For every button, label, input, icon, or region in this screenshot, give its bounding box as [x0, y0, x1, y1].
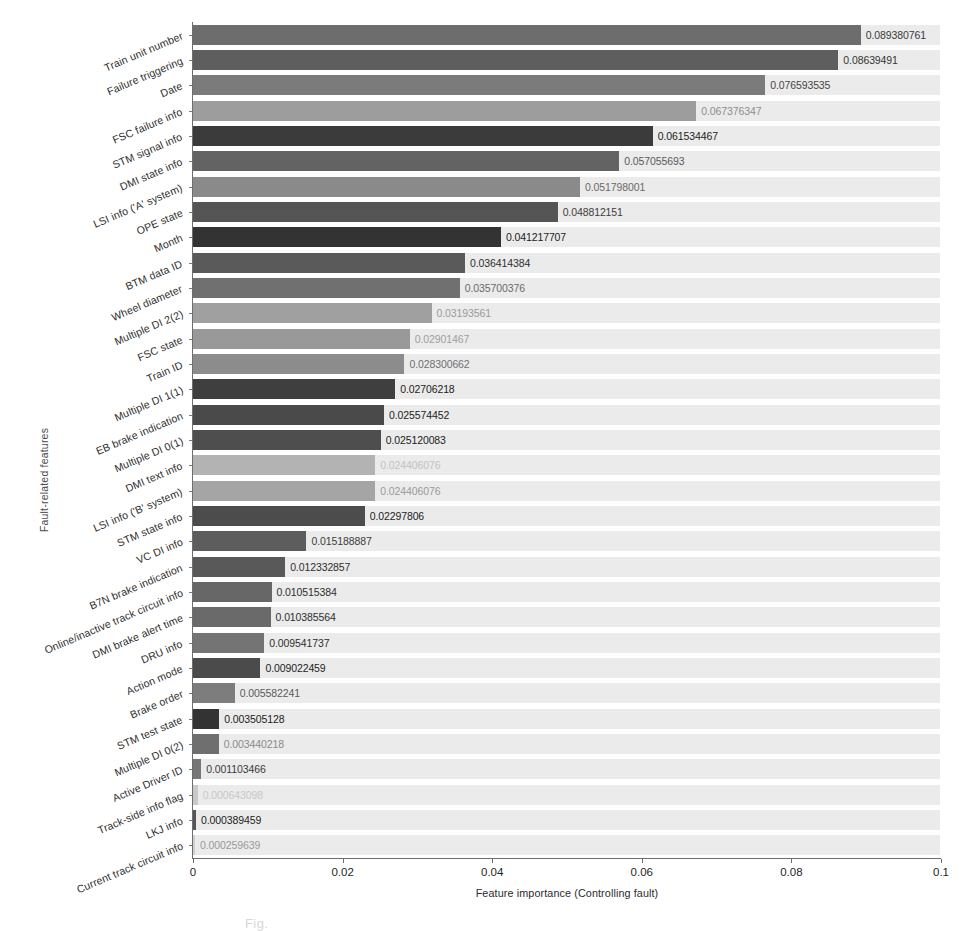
bar[interactable]	[193, 101, 696, 121]
bar[interactable]	[193, 278, 460, 298]
bar-value-label: 0.025574452	[389, 410, 449, 421]
bar[interactable]	[193, 709, 219, 729]
bar[interactable]	[193, 253, 465, 273]
bar-value-label: 0.024406076	[380, 486, 440, 497]
bar[interactable]	[193, 227, 501, 247]
row-band	[193, 759, 940, 779]
bar[interactable]	[193, 582, 272, 602]
bar-value-label: 0.08639491	[843, 55, 897, 66]
bar-value-label: 0.02901467	[415, 334, 469, 345]
bar-value-label: 0.057055693	[624, 156, 684, 167]
bar[interactable]	[193, 531, 306, 551]
bar[interactable]	[193, 455, 375, 475]
bar[interactable]	[193, 835, 195, 855]
bar-value-label: 0.005582241	[240, 688, 300, 699]
bar[interactable]	[193, 25, 861, 45]
bar[interactable]	[193, 734, 219, 754]
y-tick-label: DRU info	[139, 637, 184, 665]
bar-value-label: 0.015188887	[311, 536, 371, 547]
bar[interactable]	[193, 405, 384, 425]
x-tick-mark	[791, 859, 792, 863]
bar[interactable]	[193, 683, 235, 703]
x-tick-label: 0	[190, 866, 196, 878]
bar[interactable]	[193, 177, 580, 197]
bar[interactable]	[193, 430, 381, 450]
x-tick-mark	[941, 859, 942, 863]
x-tick-mark	[343, 859, 344, 863]
bar[interactable]	[193, 506, 365, 526]
x-tick-label: 0.06	[631, 866, 653, 878]
bar-value-label: 0.028300662	[409, 359, 469, 370]
bar[interactable]	[193, 151, 619, 171]
bar-value-label: 0.010385564	[276, 612, 336, 623]
bar-value-label: 0.009541737	[269, 638, 329, 649]
bar-value-label: 0.025120083	[386, 435, 446, 446]
bar[interactable]	[193, 658, 260, 678]
bar-value-label: 0.035700376	[465, 283, 525, 294]
bar[interactable]	[193, 379, 395, 399]
x-tick-label: 0.02	[331, 866, 353, 878]
bar-value-label: 0.036414384	[470, 258, 530, 269]
y-tick-label: LKJ info	[144, 814, 185, 840]
bar-value-label: 0.000643098	[203, 790, 263, 801]
x-tick-mark	[492, 859, 493, 863]
figure-caption-fragment: Fig.	[245, 916, 268, 931]
bar-value-label: 0.009022459	[265, 663, 325, 674]
bar-value-label: 0.003505128	[224, 714, 284, 725]
bar[interactable]	[193, 126, 653, 146]
row-band	[193, 709, 940, 729]
bar-value-label: 0.076593535	[770, 80, 830, 91]
y-tick-label: Month	[152, 232, 184, 255]
bar[interactable]	[193, 303, 432, 323]
bar-value-label: 0.041217707	[506, 232, 566, 243]
x-tick-label: 0.1	[933, 866, 949, 878]
bar-value-label: 0.089380761	[866, 30, 926, 41]
bar-value-label: 0.02297806	[370, 511, 424, 522]
bar-value-label: 0.003440218	[224, 739, 284, 750]
bar-value-label: 0.024406076	[380, 460, 440, 471]
bar[interactable]	[193, 633, 264, 653]
bar[interactable]	[193, 481, 375, 501]
y-axis-tick-labels: Train unit numberFailure triggeringDateF…	[0, 22, 188, 858]
row-band	[193, 810, 940, 830]
y-axis-line	[192, 22, 193, 859]
bar[interactable]	[193, 202, 558, 222]
y-tick-label: Date	[159, 80, 185, 100]
bar-value-label: 0.000389459	[201, 815, 261, 826]
bar[interactable]	[193, 810, 196, 830]
bar-value-label: 0.067376347	[701, 106, 761, 117]
bar[interactable]	[193, 329, 410, 349]
bar-value-label: 0.051798001	[585, 182, 645, 193]
bar[interactable]	[193, 607, 271, 627]
x-axis-title: Feature importance (Controlling fault)	[193, 887, 941, 899]
bar-value-label: 0.03193561	[437, 308, 491, 319]
row-band	[193, 683, 940, 703]
row-band	[193, 835, 940, 855]
x-tick-label: 0.08	[780, 866, 802, 878]
bar-value-label: 0.02706218	[400, 384, 454, 395]
y-tick-label: Train ID	[145, 358, 185, 384]
x-tick-label: 0.04	[481, 866, 503, 878]
bar[interactable]	[193, 75, 765, 95]
bar[interactable]	[193, 354, 404, 374]
x-tick-mark	[193, 859, 194, 863]
bar[interactable]	[193, 557, 285, 577]
bar[interactable]	[193, 785, 198, 805]
bar-value-label: 0.061534467	[658, 131, 718, 142]
x-axis-line	[193, 858, 941, 859]
row-band	[193, 734, 940, 754]
bar[interactable]	[193, 50, 838, 70]
bar-value-label: 0.001103466	[206, 764, 265, 775]
plot-area: 0.0893807610.086394910.0765935350.067376…	[193, 22, 940, 858]
bar-value-label: 0.000259639	[200, 840, 260, 851]
row-band	[193, 785, 940, 805]
x-tick-mark	[642, 859, 643, 863]
bar-value-label: 0.048812151	[563, 207, 623, 218]
bar-value-label: 0.010515384	[277, 587, 337, 598]
bar[interactable]	[193, 759, 201, 779]
y-tick-label: Current track circuit info	[74, 840, 184, 896]
bar-value-label: 0.012332857	[290, 562, 350, 573]
